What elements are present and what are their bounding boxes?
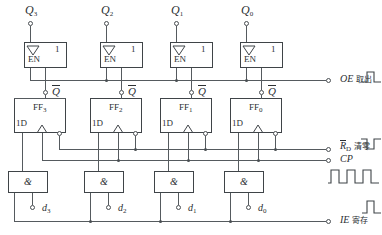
label-q3: Q3 xyxy=(25,4,37,18)
and-3-symbol: & xyxy=(24,176,32,187)
terminal-ie[interactable] xyxy=(326,219,331,224)
wire-buf3-out xyxy=(45,68,46,90)
bus-rd xyxy=(59,149,326,150)
waveform-oe xyxy=(361,70,381,84)
waveform-ie xyxy=(362,199,382,215)
wire-ff2-clk xyxy=(118,133,119,160)
wire-q1-in xyxy=(176,26,177,42)
buffer-2-en-label: EN xyxy=(104,54,116,64)
wire-q0-in xyxy=(246,26,247,42)
buffer-3-en-label: EN xyxy=(28,54,40,64)
junction-oe-2 xyxy=(105,79,108,82)
junction-rd-1 xyxy=(204,148,207,151)
and-2-symbol: & xyxy=(100,176,108,187)
junction-rd-2 xyxy=(134,148,137,151)
wire-ff1-top xyxy=(191,95,192,99)
label-q0: Q0 xyxy=(241,4,253,18)
wire-q3-in xyxy=(30,26,31,42)
buffer-2-one-label: 1 xyxy=(131,44,136,54)
waveform-rd xyxy=(361,137,381,151)
terminal-d3[interactable] xyxy=(30,205,35,210)
wire-ff1-clk xyxy=(188,133,189,160)
junction-ie-2 xyxy=(89,220,92,223)
bus-oe xyxy=(30,80,326,81)
junction-rd-0 xyxy=(274,148,277,151)
wire-and1-right xyxy=(178,193,179,205)
terminal-d2[interactable] xyxy=(106,205,111,210)
wire-and3-left xyxy=(14,193,15,221)
buffer-3-one-label: 1 xyxy=(55,44,60,54)
ff-2-clock-triangle-icon xyxy=(90,98,142,133)
waveform-cp xyxy=(328,167,382,185)
and-0-symbol: & xyxy=(240,176,248,187)
label-qbar-1: Q xyxy=(198,86,206,97)
buffer-0-en-label: EN xyxy=(244,54,256,64)
ff-3-clock-triangle-icon xyxy=(14,98,66,133)
terminal-d1[interactable] xyxy=(176,205,181,210)
terminal-oe[interactable] xyxy=(326,78,331,83)
ff-0-clock-triangle-icon xyxy=(230,98,282,133)
terminal-d0[interactable] xyxy=(246,205,251,210)
label-q1: Q1 xyxy=(171,4,183,18)
junction-cp-1 xyxy=(187,159,190,162)
wire-ff0-d-in xyxy=(238,133,239,171)
label-qbar-3: Q xyxy=(52,86,60,97)
junction-cp-0 xyxy=(257,159,260,162)
wire-ff2-d-in xyxy=(98,133,99,171)
junction-oe-1 xyxy=(175,79,178,82)
wire-buf2-out xyxy=(121,68,122,90)
wire-buf1-out xyxy=(191,68,192,90)
wire-ff1-d-in xyxy=(168,133,169,171)
label-d3: d3 xyxy=(42,203,51,215)
junction-cp-2 xyxy=(117,159,120,162)
bus-cp xyxy=(42,160,326,161)
wire-ff3-clk xyxy=(42,133,43,160)
label-d1: d1 xyxy=(188,203,197,215)
wire-ff3-d-in xyxy=(22,133,23,171)
circuit-diagram: Q3 Q2 Q1 Q0 EN 1 EN 1 EN 1 EN 1 xyxy=(0,0,382,235)
buffer-1-one-label: 1 xyxy=(201,44,206,54)
wire-and1-left xyxy=(160,193,161,221)
junction-oe-0 xyxy=(245,79,248,82)
junction-ie-1 xyxy=(159,220,162,223)
wire-buf3-en xyxy=(30,68,31,80)
wire-q2-in xyxy=(106,26,107,42)
label-d0: d0 xyxy=(258,203,267,215)
buffer-0-one-label: 1 xyxy=(271,44,276,54)
bus-ie xyxy=(14,221,326,222)
label-q2: Q2 xyxy=(101,4,113,18)
wire-ff2-top xyxy=(121,95,122,99)
and-1-symbol: & xyxy=(170,176,178,187)
wire-buf0-out xyxy=(261,68,262,90)
terminal-cp[interactable] xyxy=(326,158,331,163)
junction-ie-0 xyxy=(229,220,232,223)
label-qbar-2: Q xyxy=(128,86,136,97)
signal-label-ie: IE 寄存 xyxy=(340,215,368,225)
wire-and2-right xyxy=(108,193,109,205)
label-d2: d2 xyxy=(118,203,127,215)
signal-label-cp: CP xyxy=(340,154,353,164)
wire-and2-left xyxy=(90,193,91,221)
buffer-1-en-label: EN xyxy=(174,54,186,64)
terminal-rd[interactable] xyxy=(326,147,331,152)
wire-ff0-top xyxy=(261,95,262,99)
wire-ff3-reset xyxy=(59,136,60,149)
wire-and0-right xyxy=(248,193,249,205)
wire-ff0-clk xyxy=(258,133,259,160)
ff3-top-edge xyxy=(14,98,66,99)
wire-and3-right xyxy=(32,193,33,205)
label-qbar-0: Q xyxy=(268,86,276,97)
ff-1-clock-triangle-icon xyxy=(160,98,212,133)
wire-and0-left xyxy=(230,193,231,221)
